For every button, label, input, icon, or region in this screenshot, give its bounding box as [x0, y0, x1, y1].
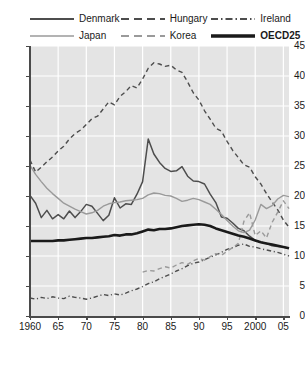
x-tick-label: 80	[128, 322, 158, 332]
solid-line-swatch	[30, 31, 74, 41]
legend-label-korea: Korea	[170, 31, 197, 41]
x-tick-label: 90	[184, 322, 214, 332]
top-white-strip	[0, 0, 305, 5]
plot-svg	[30, 46, 289, 316]
x-tick-label: 05	[268, 322, 298, 332]
dashdot-line-swatch	[211, 14, 255, 24]
series-line-japan	[30, 165, 289, 232]
x-tick-label: 70	[71, 322, 101, 332]
legend-item-korea[interactable]: Korea	[121, 31, 212, 41]
chart-legend: Denmark Hungary Ireland Japan Korea OECD…	[30, 10, 302, 44]
dashed-line-swatch	[121, 31, 165, 41]
legend-label-japan: Japan	[79, 31, 106, 41]
solid-line-swatch	[30, 14, 74, 24]
x-tick-label: 1960	[15, 322, 45, 332]
x-axis-line	[29, 316, 290, 318]
y-axis-line	[29, 46, 31, 316]
x-tick-label: 95	[212, 322, 242, 332]
legend-label-hungary: Hungary	[170, 14, 208, 24]
plot-area	[30, 46, 289, 316]
x-tick-label: 75	[99, 322, 129, 332]
legend-label-oecd25: OECD25	[260, 31, 300, 41]
x-tick-label: 65	[43, 322, 73, 332]
dashed-line-swatch	[121, 14, 165, 24]
legend-item-ireland[interactable]: Ireland	[211, 14, 302, 24]
legend-item-hungary[interactable]: Hungary	[121, 14, 212, 24]
legend-item-japan[interactable]: Japan	[30, 31, 121, 41]
x-tick-label: 85	[156, 322, 186, 332]
chart-container: Denmark Hungary Ireland Japan Korea OECD…	[0, 0, 305, 367]
series-line-ireland	[30, 244, 289, 299]
series-line-hungary	[30, 63, 289, 227]
legend-label-ireland: Ireland	[260, 14, 291, 24]
thick-solid-line-swatch	[211, 31, 255, 41]
legend-item-denmark[interactable]: Denmark	[30, 14, 121, 24]
legend-item-oecd25[interactable]: OECD25	[211, 31, 302, 41]
legend-label-denmark: Denmark	[79, 14, 120, 24]
x-tick-label: 2000	[240, 322, 270, 332]
series-line-korea	[143, 201, 289, 272]
